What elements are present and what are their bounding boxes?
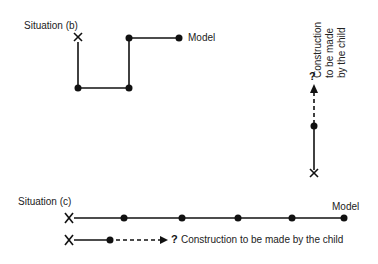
- situation-c-construction-label: Construction to be made by the child: [181, 234, 343, 245]
- situation-b-model-label: Model: [188, 32, 215, 43]
- situation-c-question-mark: ?: [171, 233, 178, 245]
- situation-b-construction-line-2: to be made: [324, 28, 336, 78]
- situation-c-label: Situation (c): [18, 196, 71, 207]
- situation-b-construction-line-3: by the child: [336, 27, 348, 78]
- situation-b-construction-line-1: Construction: [312, 22, 324, 78]
- situation-c-model-label: Model: [332, 201, 359, 212]
- diagram-canvas: Situation (b) Model ? Construction to be…: [0, 0, 378, 264]
- situation-b-label: Situation (b): [24, 20, 78, 31]
